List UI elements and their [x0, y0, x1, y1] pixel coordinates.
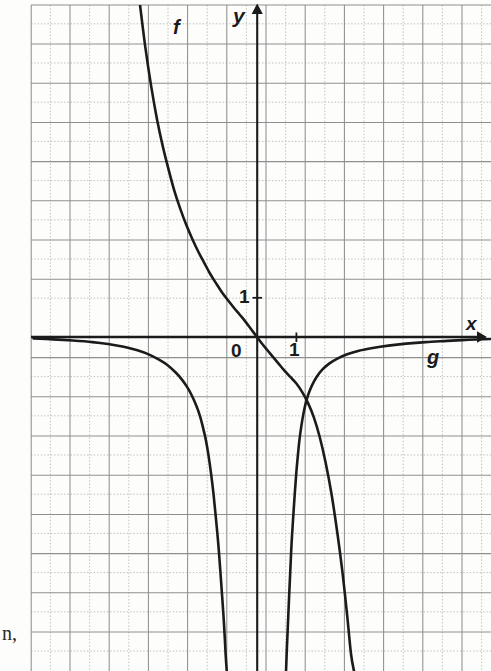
paper-background	[0, 0, 491, 671]
curve-f-label: f	[173, 17, 180, 37]
page-text-fragment: n,	[2, 623, 17, 643]
curve-g-label: g	[427, 347, 439, 367]
x-axis-label: x	[466, 314, 477, 333]
coordinate-plane	[0, 0, 491, 671]
origin-label: 0	[231, 341, 242, 360]
y-tick-one-label: 1	[239, 287, 250, 306]
x-tick-one-label: 1	[289, 340, 300, 359]
y-axis-label: y	[233, 5, 245, 26]
graph-figure: y x f g 1 1 0 n,	[0, 0, 491, 671]
